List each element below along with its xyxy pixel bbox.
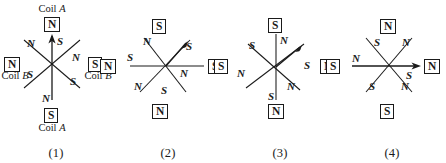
pole-label-right: N — [180, 68, 188, 79]
pole-label-left: N — [352, 53, 360, 64]
diagram-caption-3: (3) — [224, 146, 336, 161]
magnet-box-top: N — [380, 19, 396, 34]
diagram-panel-2: S N N S N S S N N S (2) — [112, 0, 224, 163]
pole-label-right: S — [406, 70, 412, 81]
magnet-box-bottom: S — [44, 108, 58, 123]
pole-label-down-right: S — [70, 76, 76, 87]
pole-label-down-left: N — [134, 81, 142, 92]
pole-label-down-right: N — [287, 81, 295, 92]
pole-label-down-right: N — [401, 81, 409, 92]
pole-label-down-right: S — [161, 85, 167, 96]
diagram-caption-1: (1) — [0, 146, 112, 161]
magnet-box-right: N — [424, 59, 440, 74]
pole-label-up: S — [57, 36, 63, 47]
arrowhead-up-right-icon — [295, 45, 302, 52]
diagram-caption-2: (2) — [112, 146, 224, 161]
pole-label-up-right: S — [304, 60, 310, 71]
pole-label-up: N — [280, 35, 288, 46]
diagram-4-stage: N S S N S N N S N S — [336, 0, 446, 138]
magnet-box-bottom: N — [268, 104, 284, 119]
pole-label-down: N — [42, 93, 50, 104]
pole-label-up-left: S — [249, 40, 255, 51]
diagram-panel-4: N S S N S N N S N S (4) — [336, 0, 446, 163]
pole-label-up-right: S — [186, 41, 192, 52]
magnet-box-top: S — [268, 18, 282, 33]
coil-label-top: Coil A — [30, 4, 74, 15]
diagram-1-stage: N Coil A S Coil A N Coil B S Coil B S N … — [0, 0, 112, 138]
coil-label-bottom: Coil A — [30, 123, 74, 134]
magnet-box-left: N — [100, 59, 116, 74]
pole-label-up-right: N — [72, 52, 80, 63]
diagram-3-stage: S N S N N S S N N S — [224, 0, 336, 138]
pole-label-left: N — [237, 68, 245, 79]
diagram-panel-1: N Coil A S Coil A N Coil B S Coil B S N … — [0, 0, 112, 163]
needle-arrow-diagonal — [166, 43, 186, 66]
pole-label-up-left: S — [374, 37, 380, 48]
magnet-box-left: S — [326, 59, 340, 74]
pole-label-down: S — [268, 91, 274, 102]
needle-arrow-diagonal — [276, 47, 300, 67]
diagram-caption-4: (4) — [336, 146, 446, 161]
magnet-box-bottom: N — [152, 104, 168, 119]
magnet-box-top: S — [152, 19, 166, 34]
pole-label-down-left: S — [27, 69, 33, 80]
pole-label-up-right: N — [402, 37, 410, 48]
pole-label-left: S — [127, 52, 133, 63]
pole-label-down-left: S — [369, 81, 375, 92]
magnet-box-bottom: S — [380, 104, 394, 119]
pole-label-up-left: N — [143, 36, 151, 47]
diagram-2-stage: S N N S N S S N N S — [112, 0, 224, 138]
magnet-box-top: N — [44, 17, 60, 32]
pole-label-up-left: N — [27, 38, 35, 49]
diagram-panel-3: S N S N N S S N N S (3) — [224, 0, 336, 163]
magnet-coil-figure: N Coil A S Coil A N Coil B S Coil B S N … — [0, 0, 446, 163]
magnet-box-left: S — [214, 59, 228, 74]
